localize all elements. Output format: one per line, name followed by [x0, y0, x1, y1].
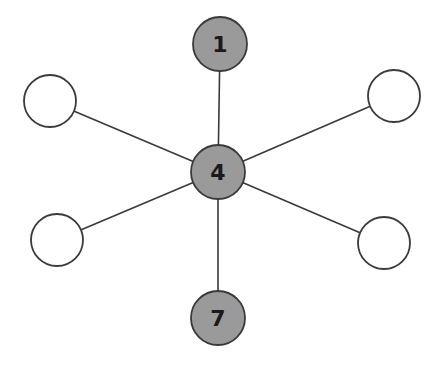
node-top-left: [24, 75, 76, 127]
node-bottom-left: [31, 214, 83, 266]
nodes: 147: [24, 17, 420, 345]
node-circle: [358, 217, 410, 269]
node-circle: [31, 214, 83, 266]
node-circle: [24, 75, 76, 127]
star-diagram: 147: [0, 0, 439, 366]
node-top-right: [368, 70, 420, 122]
node-center: 4: [191, 145, 245, 199]
node-bottom: 7: [191, 291, 245, 345]
node-label: 1: [212, 32, 227, 57]
edge-center-top-right: [218, 96, 394, 172]
node-label: 7: [210, 306, 225, 331]
node-bottom-right: [358, 217, 410, 269]
node-circle: [368, 70, 420, 122]
node-top: 1: [193, 17, 247, 71]
node-label: 4: [210, 160, 225, 185]
